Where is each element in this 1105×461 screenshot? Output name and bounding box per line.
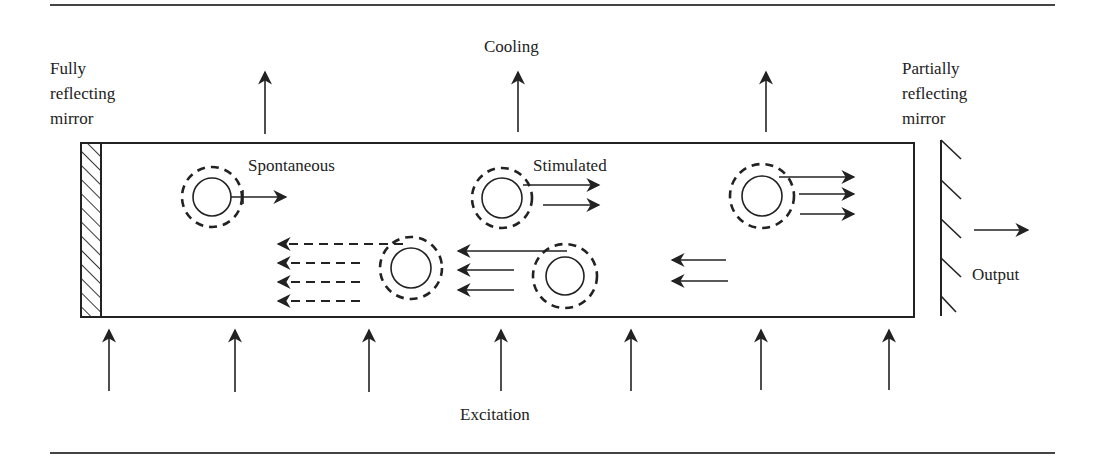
atom-reflected-middle [458,244,597,308]
output-label: Output [972,265,1020,284]
laser-diagram: Fully reflecting mirror Partially reflec… [0,0,1105,461]
cooling-arrows [265,72,766,134]
atom-stimulated-emission [472,168,599,228]
left-mirror-label: Fully reflecting mirror [50,59,119,128]
atom-spontaneous-emission [182,167,286,227]
stimulated-label: Stimulated [533,156,607,175]
reflected-photons [672,260,728,281]
excitation-label: Excitation [460,405,530,424]
atom-reflected-left [278,237,442,301]
cooling-label: Cooling [484,37,539,56]
excitation-arrows [109,330,889,392]
laser-cavity [81,143,914,317]
spontaneous-label: Spontaneous [248,156,335,175]
fully-reflecting-mirror [81,143,101,317]
partially-reflecting-mirror [941,140,961,316]
atom-right-amplified [730,164,854,228]
right-mirror-label: Partially reflecting mirror [902,59,971,128]
